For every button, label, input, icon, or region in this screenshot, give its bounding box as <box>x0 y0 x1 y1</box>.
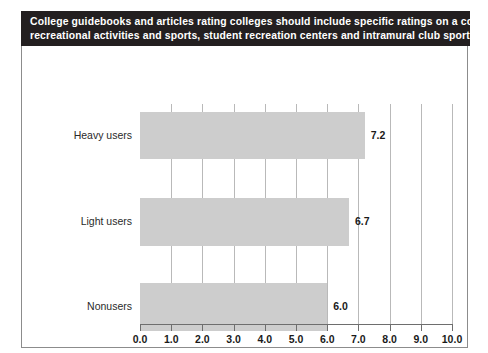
x-axis-tick-label: 10.0 <box>442 333 462 345</box>
bar-value-label: 7.2 <box>371 129 386 141</box>
x-axis-tick <box>171 324 172 331</box>
bar <box>140 112 365 159</box>
x-axis-tick-label: 2.0 <box>195 333 210 345</box>
x-axis-tick-label: 9.0 <box>413 333 428 345</box>
x-axis-tick <box>296 324 297 331</box>
bar <box>140 198 349 246</box>
chart-title-line-1: College guidebooks and articles rating c… <box>30 15 462 29</box>
x-axis-tick <box>358 324 359 331</box>
x-axis-tick <box>327 324 328 331</box>
category-label-column: Heavy usersLight usersNonusers <box>44 92 132 332</box>
gridline <box>390 104 391 324</box>
x-axis-tick <box>265 324 266 331</box>
x-axis-tick <box>452 324 453 331</box>
x-axis-tick <box>140 324 141 331</box>
chart-title-banner: College guidebooks and articles rating c… <box>21 11 470 46</box>
category-label: Heavy users <box>74 129 132 141</box>
x-axis-tick-label: 3.0 <box>226 333 241 345</box>
plot-area: 7.26.76.0 <box>140 104 452 324</box>
chart-frame: Heavy usersLight usersNonusers 7.26.76.0… <box>21 46 468 348</box>
x-axis-tick-label: 5.0 <box>289 333 304 345</box>
x-axis-tick-label: 1.0 <box>164 333 179 345</box>
x-axis-tick-label: 8.0 <box>382 333 397 345</box>
chart-title-line-2: recreational activities and sports, stud… <box>30 29 462 43</box>
x-axis-tick <box>421 324 422 331</box>
x-axis-tick-label: 0.0 <box>133 333 148 345</box>
category-label: Light users <box>81 215 132 227</box>
gridline <box>452 104 453 324</box>
x-axis-tick <box>390 324 391 331</box>
x-axis-tick <box>234 324 235 331</box>
x-axis-tick-label: 7.0 <box>351 333 366 345</box>
x-axis-tick-label: 4.0 <box>257 333 272 345</box>
bar-value-label: 6.7 <box>355 215 370 227</box>
category-label: Nonusers <box>87 300 132 312</box>
bar-value-label: 6.0 <box>333 300 348 312</box>
x-axis-tick <box>202 324 203 331</box>
gridline <box>421 104 422 324</box>
x-axis-tick-label: 6.0 <box>320 333 335 345</box>
